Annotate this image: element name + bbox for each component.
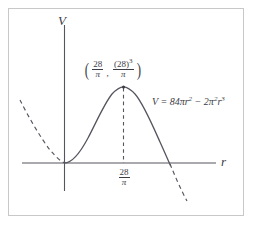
- maximum-point-label: ( 28 π , (28)3 π ): [84, 60, 142, 80]
- curve-equation-label: V = 84πr2 − 2π2r3: [152, 97, 225, 107]
- figure-root: V r 28 π ( 28 π , (28)3 π ) V = 84πr2 − …: [0, 0, 254, 226]
- x-tick-label: 28 π: [110, 168, 138, 188]
- dashed-right-branch: [170, 164, 187, 201]
- label-x-denominator: π: [92, 70, 103, 79]
- label-x-fraction: 28 π: [92, 60, 103, 80]
- equation-term1-coefficient: 84: [170, 96, 180, 107]
- equation-equals: =: [160, 96, 167, 107]
- label-close-paren: ): [137, 61, 141, 79]
- plot-canvas: [0, 0, 254, 226]
- dashed-left-branch: [20, 100, 65, 163]
- label-open-paren: (: [85, 61, 89, 79]
- y-axis-label: V: [58, 14, 66, 27]
- equation-term1-exponent: 2: [189, 95, 193, 103]
- equation-lhs: V: [152, 96, 158, 107]
- label-y-numerator-base: (28): [114, 59, 129, 69]
- label-comma: ,: [106, 69, 111, 78]
- maximum-point-marker: [122, 86, 125, 89]
- x-tick-denominator: π: [119, 178, 130, 187]
- label-y-fraction: (28)3 π: [113, 60, 134, 80]
- x-axis-label: r: [221, 155, 226, 168]
- equation-operator: −: [195, 96, 202, 107]
- equation-term2-exponent: 3: [221, 95, 225, 103]
- x-tick-fraction: 28 π: [119, 168, 130, 188]
- label-y-denominator: π: [113, 70, 134, 79]
- label-y-numerator-exponent: 3: [129, 57, 133, 65]
